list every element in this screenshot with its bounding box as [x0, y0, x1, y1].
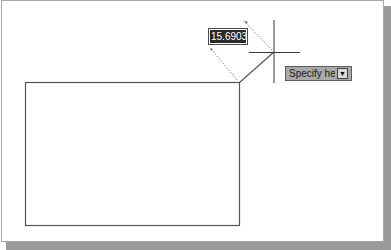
down-arrow-icon[interactable]: ▼ [337, 68, 348, 79]
drawing-layer [0, 0, 391, 250]
prompt-text: Specify height or [286, 68, 335, 79]
dimension-extension-line-lower [211, 49, 238, 81]
dimension-extension-line-upper [244, 21, 273, 51]
dynamic-input-dimension-field[interactable]: 15.6903 [208, 28, 248, 45]
dimension-arrow-lower-icon [210, 48, 213, 51]
command-prompt-tooltip: Specify height or ▼ [285, 66, 352, 81]
rectangle-object[interactable] [26, 83, 240, 226]
rubberband-line [240, 52, 275, 83]
dimension-value: 15.6903 [210, 30, 246, 43]
